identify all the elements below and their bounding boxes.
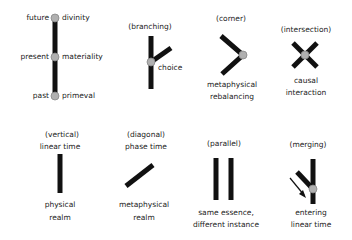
past-label: past — [33, 91, 49, 101]
merging-title: (merging) — [289, 140, 326, 150]
intersection-caption-1: causal — [294, 76, 318, 86]
intersection-caption-2: interaction — [286, 88, 327, 98]
diagonal-title: (diagonal) — [127, 130, 165, 140]
vertical-subtitle: linear time — [40, 142, 81, 152]
vertical-caption-1: physical — [45, 200, 76, 210]
corner-figure — [221, 36, 247, 74]
merging-caption-2: linear time — [291, 220, 332, 230]
choice-caption: choice — [158, 63, 182, 73]
merging-figure — [290, 159, 317, 204]
materiality-label: materiality — [62, 52, 103, 62]
intersection-title: (intersection) — [281, 25, 331, 35]
divinity-label: divinity — [62, 13, 90, 23]
diagonal-figure — [126, 165, 153, 186]
diagonal-subtitle: phase time — [125, 142, 167, 152]
corner-caption-2: rebalancing — [210, 92, 254, 102]
diagonal-caption-2: realm — [133, 213, 155, 223]
parallel-caption-2: different instance — [193, 220, 259, 230]
corner-title: (corner) — [216, 14, 246, 24]
intersection-figure — [293, 43, 317, 67]
future-node-icon — [51, 14, 59, 22]
parallel-title: (parallel) — [207, 139, 241, 149]
future-label: future — [26, 13, 49, 23]
past-node-icon — [51, 92, 59, 100]
diagonal-caption-1: metaphysical — [119, 200, 169, 210]
parallel-figure — [216, 158, 231, 200]
vertical-caption-2: realm — [49, 213, 71, 223]
present-label: present — [20, 52, 49, 62]
branching-title: (branching) — [128, 22, 172, 32]
timeline-figure — [51, 14, 59, 100]
vertical-title: (vertical) — [45, 130, 79, 140]
branch-node-icon — [147, 58, 155, 66]
parallel-caption-1: same essence, — [198, 208, 254, 218]
merging-caption-1: entering — [295, 208, 327, 218]
present-node-icon — [51, 53, 59, 61]
merge-node-icon — [309, 185, 317, 193]
intersection-node-icon — [301, 51, 309, 59]
corner-node-icon — [239, 51, 247, 59]
primeval-label: primeval — [62, 91, 95, 101]
corner-caption-1: metaphysical — [207, 80, 257, 90]
